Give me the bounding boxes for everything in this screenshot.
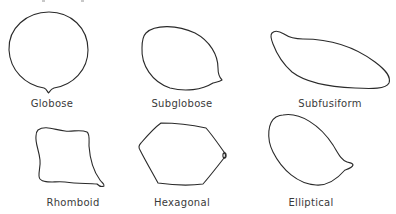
rhomboid-outline [36,128,104,187]
shape-diagram: Globose Subglobose Subfusiform Rhomboid … [0,0,396,214]
elliptical-outline [269,115,353,186]
label-subglobose: Subglobose [151,98,212,110]
label-globose: Globose [31,98,74,110]
label-rhomboid: Rhomboid [46,197,99,209]
label-elliptical: Elliptical [288,197,333,209]
hexagonal-outline [139,123,226,185]
label-hexagonal: Hexagonal [154,197,210,209]
subfusiform-outline [271,31,390,88]
globose-outline [9,12,88,93]
label-subfusiform: Subfusiform [298,98,362,110]
subglobose-outline [142,27,222,90]
